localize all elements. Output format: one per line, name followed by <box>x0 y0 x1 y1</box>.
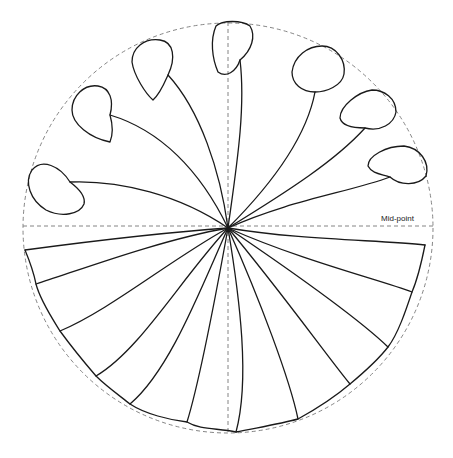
ray-lower-5 <box>187 228 228 422</box>
ray-lower-8 <box>228 228 350 384</box>
bulb-upper-left-1 <box>72 86 112 142</box>
bulb-upper-right-1 <box>292 46 344 92</box>
stem-upper-left-1 <box>110 115 228 228</box>
scalloped-edge <box>25 245 425 432</box>
bulb-left <box>28 164 84 214</box>
ray-lower-7 <box>228 228 298 419</box>
mid-point-label: Mid-point <box>381 214 415 223</box>
bulb-right <box>368 146 427 184</box>
stem-left <box>70 182 228 228</box>
ray-lower-2 <box>60 228 228 331</box>
stem-upper-left-2 <box>168 75 228 228</box>
stem-upper-right-2 <box>228 128 365 228</box>
lower-rays-group <box>25 228 425 432</box>
stem-top <box>228 60 242 228</box>
ray-lower-4 <box>130 228 228 404</box>
circle-pattern-diagram: Mid-point <box>0 0 453 458</box>
ray-lower-11 <box>228 228 425 245</box>
bulb-top <box>212 22 252 75</box>
bulb-upper-right-2 <box>340 90 396 129</box>
bulb-upper-left-2 <box>132 40 173 100</box>
ray-lower-3 <box>96 228 228 376</box>
